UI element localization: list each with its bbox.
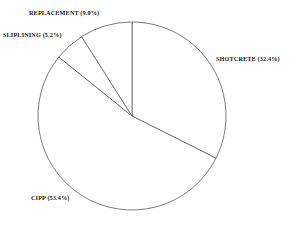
pie-slice-label-replacement: REPLACEMENT (9.0%) — [29, 10, 99, 16]
pie-slice-label-shotcrete: SHOTCRETE (32.4%) — [216, 56, 280, 62]
pie-chart: SHOTCRETE (32.4%) CIPP (53.4%) SLIPLININ… — [0, 0, 296, 225]
pie-slice-label-sliplining: SLIPLINING (5.2%) — [3, 32, 62, 38]
pie-slice-label-cipp: CIPP (53.4%) — [31, 195, 70, 201]
